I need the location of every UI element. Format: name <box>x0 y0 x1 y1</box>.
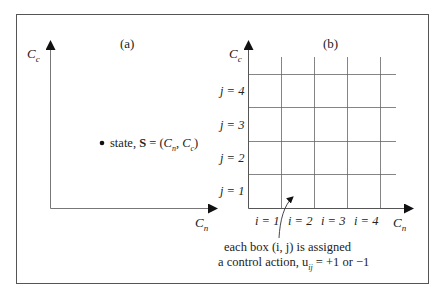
row-label-j1: j = 1 <box>220 185 244 198</box>
annotation-line-1: each box (i, j) is assigned <box>224 241 351 254</box>
panel-a-x-axis-label: Cn <box>195 216 208 233</box>
panel-a-y-axis-label: Cc <box>27 47 40 64</box>
state-point <box>100 141 105 146</box>
panel-a-label: (a) <box>120 37 134 50</box>
row-label-j3: j = 3 <box>220 119 244 132</box>
panel-b-axes <box>249 42 413 209</box>
state-label: state, S = (Cn, Cc) <box>110 137 198 153</box>
col-label-i4: i = 4 <box>354 215 378 228</box>
panel-b-label: (b) <box>323 37 338 50</box>
annotation-line-2: a control action, uij = +1 or −1 <box>218 256 369 272</box>
col-label-i2: i = 2 <box>288 215 312 228</box>
panel-a-axes <box>51 42 217 209</box>
col-label-i1: i = 1 <box>255 215 279 228</box>
col-label-i3: i = 3 <box>321 215 345 228</box>
row-label-j4: j = 4 <box>220 85 244 98</box>
row-label-j2: j = 2 <box>220 152 244 165</box>
panel-b-grid <box>249 57 397 209</box>
panel-b-x-axis-label: Cn <box>393 216 406 233</box>
panel-b-y-axis-label: Cc <box>229 47 242 64</box>
